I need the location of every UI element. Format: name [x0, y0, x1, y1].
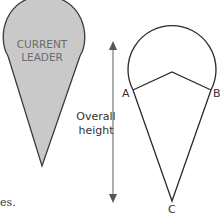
overall-height-dimension: Overall height — [76, 41, 117, 203]
point-b-label: B — [213, 87, 221, 100]
arrow-up-icon — [109, 41, 117, 50]
construction-shape: A B C — [122, 26, 221, 213]
leader-label-line2: LEADER — [21, 51, 63, 63]
dimension-label-line1: Overall — [76, 110, 115, 123]
diagram-canvas: CURRENT LEADER Overall height A B C es. — [0, 0, 221, 213]
current-leader-shape: CURRENT LEADER — [3, 0, 85, 166]
text-fragment: es. — [0, 196, 16, 209]
point-c-label: C — [168, 203, 176, 213]
leader-label-line1: CURRENT — [17, 38, 68, 50]
dimension-label-line2: height — [78, 124, 114, 137]
point-a-label: A — [122, 87, 130, 100]
arrow-down-icon — [109, 194, 117, 203]
